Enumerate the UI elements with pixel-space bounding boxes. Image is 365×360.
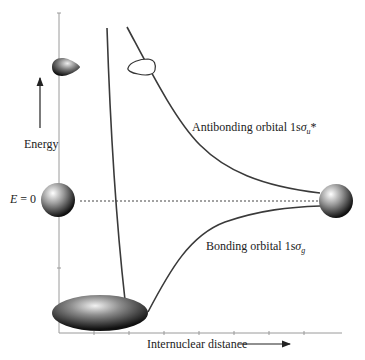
energy-var: E: [10, 192, 17, 206]
antibonding-lobe-outline-icon: [128, 59, 155, 75]
bonding-curve: [148, 206, 320, 312]
diagram-canvas: [0, 0, 365, 360]
antibonding-label-text: Antibonding orbital 1s: [192, 120, 301, 134]
antibonding-label: Antibonding orbital 1sσu*: [192, 120, 317, 136]
bonding-label: Bonding orbital 1sσg: [206, 239, 305, 255]
zero-value: = 0: [20, 192, 36, 206]
y-axis-label: Energy: [24, 137, 58, 152]
star-suffix: *: [311, 120, 317, 134]
bonding-label-text: Bonding orbital 1s: [206, 239, 295, 253]
mo-energy-diagram: Energy E = 0 Antibonding orbital 1sσu* B…: [0, 0, 365, 360]
atom-right-sphere-icon: [319, 184, 353, 218]
repulsive-wall-curve: [107, 28, 125, 300]
antibonding-lobe-filled-icon: [52, 58, 80, 76]
atom-left-sphere-icon: [41, 183, 75, 217]
bonding-ellipsoid-icon: [52, 295, 148, 331]
axis-ticks: [57, 13, 304, 335]
antibonding-curve: [127, 27, 320, 193]
subscript-g: g: [301, 246, 305, 255]
x-axis-label: Internuclear distance: [147, 337, 247, 352]
zero-energy-label: E = 0: [10, 192, 36, 207]
